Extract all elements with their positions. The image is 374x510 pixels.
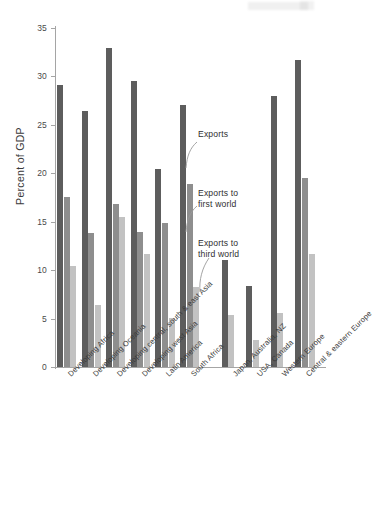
bar — [57, 85, 63, 367]
annotation-line-2: first world — [198, 199, 236, 209]
bar — [64, 197, 70, 367]
bar — [113, 204, 119, 367]
y-tick-label-10: 10 — [5, 265, 47, 275]
leader-line-exports — [186, 142, 197, 168]
bar — [295, 60, 301, 367]
y-tick-10 — [51, 270, 56, 271]
annotation-exports: Exports — [198, 129, 228, 140]
y-axis-line — [55, 26, 56, 369]
y-tick-0 — [51, 367, 56, 368]
bar — [82, 111, 88, 367]
bar — [131, 81, 137, 367]
y-tick-25 — [51, 125, 56, 126]
annotation-line-1: Exports to — [198, 188, 238, 198]
scan-artifact — [248, 2, 308, 10]
y-tick-label-5: 5 — [5, 314, 47, 324]
y-tick-label-0: 0 — [5, 362, 47, 372]
y-tick-label-20: 20 — [5, 168, 47, 178]
annotation-exports-first-world: Exports tofirst world — [198, 188, 238, 209]
bar — [228, 315, 234, 367]
y-tick-35 — [51, 28, 56, 29]
annotation-line-2: third world — [198, 249, 239, 259]
bar — [70, 266, 76, 367]
bar — [302, 178, 308, 367]
y-tick-label-15: 15 — [5, 217, 47, 227]
bar — [187, 184, 193, 367]
y-tick-label-35: 35 — [5, 23, 47, 33]
annotation-line-1: Exports to — [198, 238, 238, 248]
bar — [95, 305, 101, 367]
y-tick-30 — [51, 76, 56, 77]
y-tick-20 — [51, 173, 56, 174]
annotation-exports-third-world: Exports tothird world — [198, 238, 239, 259]
y-tick-5 — [51, 319, 56, 320]
y-tick-15 — [51, 222, 56, 223]
y-tick-label-30: 30 — [5, 71, 47, 81]
scan-artifact — [300, 1, 314, 10]
bar — [106, 48, 112, 367]
y-tick-label-25: 25 — [5, 120, 47, 130]
